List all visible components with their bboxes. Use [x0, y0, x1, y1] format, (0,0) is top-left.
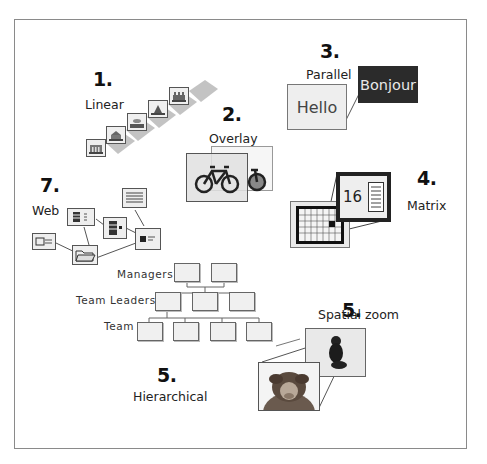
section-number-hierarchical: 5. — [157, 364, 176, 386]
web-node-media — [103, 217, 127, 239]
web-node-folder-list — [32, 233, 56, 250]
chimp-closeup-icon — [259, 363, 319, 410]
folder-small-icon — [33, 234, 55, 249]
bonjour-text: Bonjour — [360, 77, 416, 93]
spatial-detail-panel — [258, 362, 320, 411]
hello-text: Hello — [297, 98, 338, 117]
section-number-parallel: 3. — [320, 40, 339, 62]
matrix-zoom-panel: 16 — [336, 172, 391, 222]
matrix-cell-value: 16 — [343, 188, 362, 206]
org-node-team-leader — [155, 292, 181, 311]
org-node-team-leader — [192, 292, 218, 311]
org-node-team-leader — [229, 292, 255, 311]
parallel-panel-hello: Hello — [287, 84, 347, 130]
web-node-text-doc — [122, 188, 147, 208]
film-icon — [104, 218, 126, 238]
web-node-folder — [72, 245, 98, 265]
org-node-team-member — [173, 322, 199, 341]
section-label-matrix: Matrix — [407, 198, 446, 213]
list-icon — [68, 209, 94, 225]
open-folder-icon — [73, 246, 97, 264]
overlay-bicycle-partial — [249, 170, 265, 190]
level-label-managers: Managers — [117, 268, 173, 280]
text-lines-icon — [123, 189, 146, 207]
section-label-web: Web — [32, 203, 59, 218]
org-node-manager — [174, 263, 200, 282]
level-label-team: Team — [104, 320, 134, 332]
org-node-team-member — [210, 322, 236, 341]
section-label-hierarchical: Hierarchical — [133, 389, 208, 404]
section-number-web: 7. — [40, 174, 59, 196]
level-label-team-leaders: Team Leaders — [76, 294, 156, 306]
web-node-card — [135, 228, 161, 250]
section-number-matrix: 4. — [417, 167, 436, 189]
org-node-team-member — [137, 322, 163, 341]
org-node-manager — [211, 263, 237, 282]
section-label-spatial-zoom: Spatial zoom — [318, 307, 399, 322]
web-node-list — [67, 208, 95, 226]
parallel-panel-bonjour: Bonjour — [358, 66, 418, 103]
section-label-parallel: Parallel — [306, 67, 352, 82]
document-icon — [368, 182, 384, 212]
card-icon — [136, 229, 160, 249]
org-node-team-member — [246, 322, 272, 341]
